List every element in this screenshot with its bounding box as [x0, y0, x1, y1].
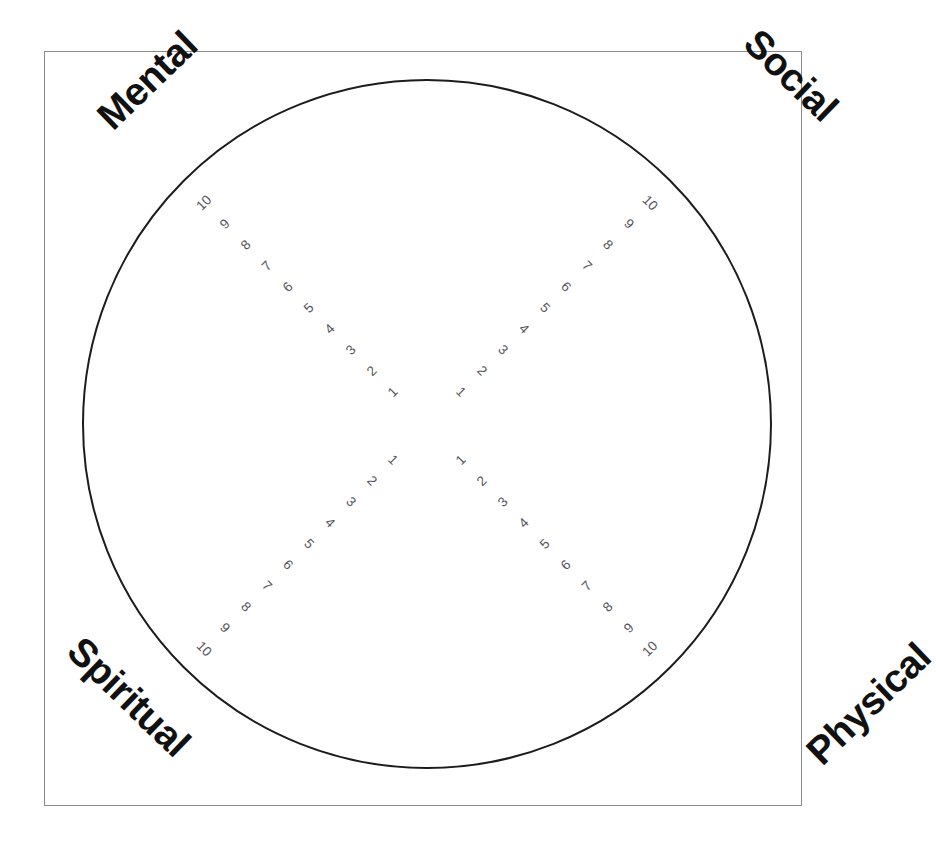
wheel-circle [82, 79, 772, 769]
quadrant-label-physical: Physical [799, 636, 936, 771]
